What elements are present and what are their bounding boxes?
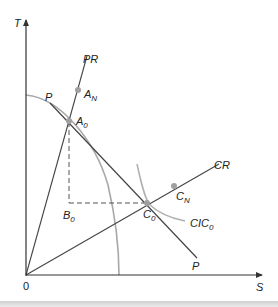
bottom-divider <box>0 301 278 307</box>
price-label-top: P <box>45 91 53 103</box>
cic-label: CIC0 <box>190 217 214 232</box>
point-cn <box>171 183 177 189</box>
production-possibility-diagram: T S 0 PR CR P P CIC0 A0 AN B0 C0 CN <box>0 0 278 307</box>
point-an <box>75 87 81 93</box>
cr-label: CR <box>214 159 230 171</box>
point-a0 <box>66 118 72 124</box>
y-axis-label: T <box>14 17 22 29</box>
price-label-bottom: P <box>192 260 200 272</box>
x-axis-label: S <box>256 281 264 293</box>
c0-label: C0 <box>143 208 156 223</box>
an-label: AN <box>83 88 97 103</box>
point-c0 <box>144 200 150 206</box>
pr-label: PR <box>83 53 98 65</box>
origin-label: 0 <box>23 280 29 292</box>
b0-label: B0 <box>63 209 75 224</box>
price-line <box>50 103 197 258</box>
cn-label: CN <box>176 190 190 205</box>
